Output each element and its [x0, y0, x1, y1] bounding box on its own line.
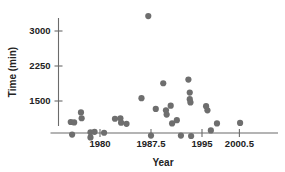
data-point: [87, 134, 93, 140]
plot-canvas: 15002250300019801987.519952000.5 Year Ti…: [0, 0, 285, 172]
data-point: [145, 13, 151, 19]
data-point: [204, 107, 210, 113]
data-point: [153, 106, 159, 112]
x-tick-label-1987.5: 1987.5: [136, 138, 166, 149]
data-point: [160, 80, 166, 86]
data-point: [69, 132, 75, 138]
data-points: [68, 13, 244, 141]
y-tick-label-1500: 1500: [29, 95, 50, 106]
data-point: [237, 120, 243, 126]
scatter-chart-figure: 15002250300019801987.519952000.5 Year Ti…: [0, 0, 285, 172]
data-point: [188, 133, 194, 139]
data-point: [187, 99, 193, 105]
x-tick-label-2000.5: 2000.5: [225, 138, 255, 149]
data-point: [208, 127, 214, 133]
data-point: [112, 116, 118, 122]
data-point: [78, 109, 84, 115]
data-point: [178, 132, 184, 138]
data-point: [71, 119, 77, 125]
data-point: [123, 121, 129, 127]
y-axis-title: Time (min): [7, 47, 18, 97]
x-tick-label-1995: 1995: [191, 138, 213, 149]
data-point: [91, 129, 97, 135]
data-point: [118, 120, 124, 126]
data-point: [164, 111, 170, 117]
data-point: [148, 132, 154, 138]
x-axis-title: Year: [152, 157, 173, 168]
y-tick-label-2250: 2250: [29, 60, 50, 71]
axis-tick-labels: 15002250300019801987.519952000.5: [29, 25, 254, 149]
data-point: [185, 76, 191, 82]
y-tick-label-3000: 3000: [29, 25, 50, 36]
data-point: [214, 120, 220, 126]
data-point: [187, 90, 193, 96]
data-point: [138, 95, 144, 101]
data-point: [168, 103, 174, 109]
data-point: [101, 130, 107, 136]
data-point: [174, 117, 180, 123]
data-point: [79, 115, 85, 121]
